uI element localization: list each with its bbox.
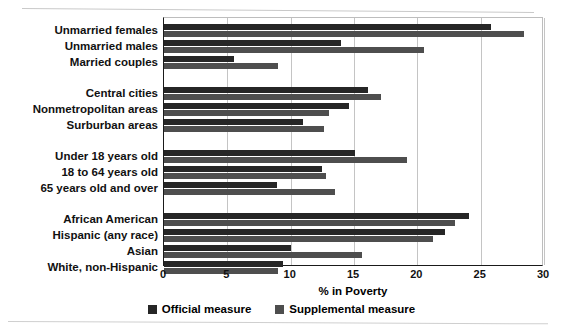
x-tick-label-10: 10 [284,268,296,280]
x-tick-label-15: 15 [347,268,359,280]
bar-official-2 [164,56,234,62]
bar-supplemental-12 [164,268,278,274]
page-top-rule [22,8,534,13]
bar-supplemental-3 [164,94,381,100]
bar-supplemental-9 [164,220,455,226]
bar-supplemental-11 [164,252,362,258]
bar-supplemental-1 [164,47,424,53]
bar-supplemental-7 [164,173,326,179]
category-label-2: Married couples [70,56,158,68]
plot-area [163,17,543,266]
chart-legend: Official measureSupplemental measure [0,303,563,315]
bar-official-12 [164,261,283,267]
legend-label-0: Official measure [162,303,251,315]
category-label-8: 65 years old and over [40,182,158,194]
x-axis-title: % in Poverty [163,285,543,297]
x-tick-label-5: 5 [223,268,229,280]
bar-official-3 [164,87,368,93]
bar-supplemental-6 [164,157,407,163]
category-label-6: Under 18 years old [55,150,158,162]
bar-supplemental-8 [164,189,335,195]
legend-label-1: Supplemental measure [289,303,415,315]
category-label-4: Nonmetropolitan areas [33,103,158,115]
category-label-9: African American [63,213,158,225]
bar-official-6 [164,150,355,156]
category-label-1: Unmarried males [65,40,158,52]
category-label-11: Asian [127,245,158,257]
bar-official-7 [164,166,322,172]
bar-official-11 [164,245,291,251]
bar-supplemental-2 [164,63,278,69]
category-label-10: Hispanic (any race) [53,229,158,241]
poverty-bar-chart: Unmarried femalesUnmarried malesMarried … [0,0,563,329]
bar-supplemental-4 [164,110,329,116]
category-label-0: Unmarried females [54,24,158,36]
bar-official-8 [164,182,277,188]
bar-official-10 [164,229,445,235]
legend-swatch-official [148,305,157,314]
bar-official-1 [164,40,341,46]
bar-supplemental-0 [164,31,524,37]
gridline-30 [544,18,545,265]
category-label-5: Surburban areas [67,119,158,131]
legend-item-1: Supplemental measure [275,303,415,315]
bar-supplemental-5 [164,126,324,132]
bar-official-4 [164,103,349,109]
category-label-7: 18 to 64 years old [61,166,158,178]
x-tick-label-25: 25 [474,268,486,280]
bar-official-5 [164,119,303,125]
legend-swatch-supplemental [275,305,284,314]
bar-supplemental-10 [164,236,433,242]
bar-official-0 [164,24,491,30]
page-bottom-rule [8,321,548,324]
bar-official-9 [164,213,469,219]
x-tick-label-30: 30 [537,268,549,280]
category-label-3: Central cities [86,87,158,99]
x-tick-label-0: 0 [160,268,166,280]
x-tick-label-20: 20 [410,268,422,280]
category-axis-labels: Unmarried femalesUnmarried malesMarried … [0,17,158,266]
bars-layer [164,18,542,265]
category-label-12: White, non-Hispanic [47,261,158,273]
legend-item-0: Official measure [148,303,251,315]
